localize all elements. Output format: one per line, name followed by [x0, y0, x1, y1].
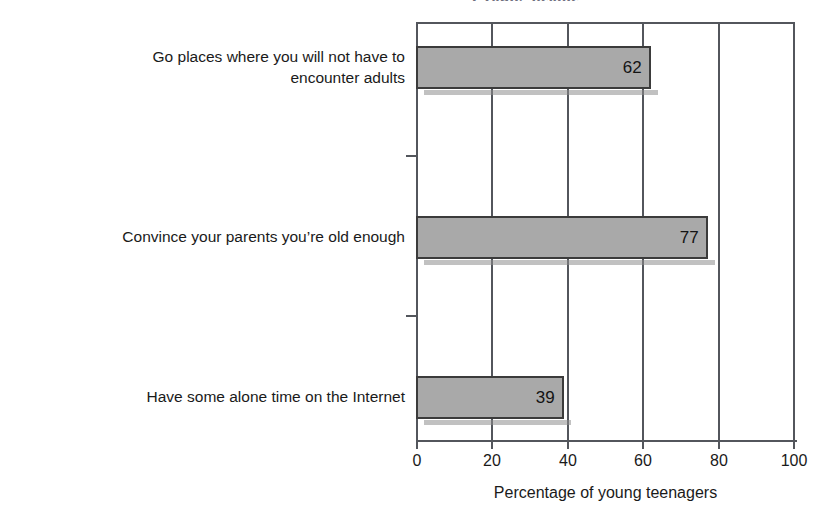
x-axis-line — [416, 440, 797, 442]
x-tick-label-60: 60 — [613, 452, 673, 470]
x-tick-40 — [567, 440, 569, 449]
bar-shadow-3 — [424, 420, 571, 425]
plot-top-border — [416, 22, 795, 24]
bar-go-places: 62 — [416, 46, 651, 89]
bar-alone-time-internet: 39 — [416, 376, 564, 419]
x-tick-label-80: 80 — [689, 452, 749, 470]
x-tick-100 — [793, 440, 795, 449]
x-tick-0 — [416, 440, 418, 449]
x-tick-label-0: 0 — [387, 452, 447, 470]
bar-value-label: 39 — [536, 389, 562, 406]
gridline-80 — [718, 22, 720, 440]
x-tick-80 — [718, 440, 720, 449]
category-tick-2 — [406, 315, 417, 317]
cropped-chart-title: y young people — [470, 0, 830, 1]
x-tick-label-40: 40 — [538, 452, 598, 470]
x-axis-title: Percentage of young teenagers — [416, 484, 795, 502]
bar-chart: y young people 62 77 39 Go places where … — [0, 0, 837, 530]
bar-value-label: 62 — [623, 59, 649, 76]
bar-convince-parents: 77 — [416, 216, 708, 259]
category-label-alone-time: Have some alone time on the Internet — [30, 386, 405, 407]
bar-shadow-1 — [424, 90, 658, 95]
x-tick-60 — [642, 440, 644, 449]
bar-value-label: 77 — [680, 229, 706, 246]
x-tick-20 — [491, 440, 493, 449]
x-tick-label-20: 20 — [462, 452, 522, 470]
category-label-convince-parents: Convince your parents you’re old enough — [30, 226, 405, 247]
category-tick-1 — [406, 155, 417, 157]
bar-shadow-2 — [424, 260, 715, 265]
category-label-go-places: Go places where you will not have to enc… — [30, 46, 405, 88]
x-tick-label-100: 100 — [764, 452, 824, 470]
gridline-100 — [793, 22, 795, 440]
